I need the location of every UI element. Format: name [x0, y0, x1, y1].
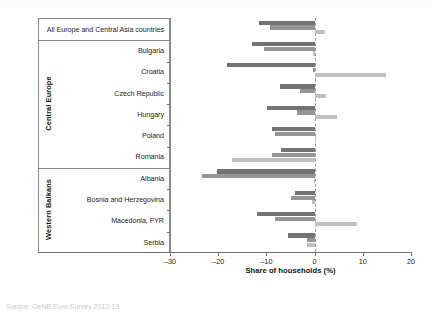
bar	[232, 158, 315, 162]
bar	[314, 179, 315, 183]
bar	[291, 196, 315, 200]
bar	[264, 47, 315, 51]
category-label: Hungary	[137, 111, 164, 119]
bar	[313, 51, 314, 55]
bar	[295, 191, 314, 195]
bar	[315, 222, 357, 226]
source-note: Source: OeNB Euro Survey 2012-13	[6, 303, 119, 310]
bar	[281, 148, 314, 152]
category-label: Romania	[136, 153, 164, 161]
category-label: Bosnia and Herzegovina	[87, 196, 164, 204]
bar	[267, 106, 315, 110]
bar	[307, 238, 315, 242]
category-label-row: Poland	[39, 125, 169, 146]
x-axis-line	[38, 252, 411, 253]
bar	[202, 174, 315, 178]
x-axis-tick-label: –20	[212, 257, 224, 266]
bar	[280, 84, 315, 88]
category-label: Albania	[140, 175, 164, 183]
category-label-row: Czech Republic	[39, 83, 169, 104]
bar	[227, 63, 315, 67]
category-label: Croatia	[141, 68, 164, 76]
bar	[272, 153, 315, 157]
category-label: Czech Republic	[114, 90, 164, 98]
x-axis-tick-label: 0	[313, 257, 317, 266]
category-label: Bulgaria	[138, 47, 164, 55]
x-axis-tick-label: –10	[260, 257, 272, 266]
category-label-row: Croatia	[39, 62, 169, 83]
category-label-panel: All Europe and Central Asia countriesBul…	[38, 18, 170, 252]
bar	[315, 115, 337, 119]
category-label-row: Bulgaria	[39, 40, 169, 61]
bar	[259, 21, 315, 25]
x-axis-tick-label: 20	[407, 257, 415, 266]
chart-figure: All Europe and Central Asia countriesBul…	[0, 0, 432, 312]
bar	[315, 94, 327, 98]
bar	[275, 132, 315, 136]
bar	[270, 25, 315, 29]
plot-area: –30–20–1001020	[170, 18, 411, 252]
category-label: Serbia	[144, 239, 164, 247]
x-axis-tick-label: –30	[164, 257, 176, 266]
bar	[297, 110, 314, 114]
bar	[315, 30, 325, 34]
bar	[315, 73, 386, 77]
category-label-row: Albania	[39, 168, 169, 189]
category-label-row: All Europe and Central Asia countries	[39, 19, 169, 40]
band-separator-middle	[39, 168, 171, 169]
x-axis-title: Share of households (%)	[170, 266, 411, 275]
category-label: Macedonia, FYR	[111, 217, 164, 225]
bar	[275, 217, 315, 221]
category-label-row: Hungary	[39, 104, 169, 125]
plot-left-spine	[170, 18, 171, 252]
bar	[288, 233, 315, 237]
bar	[300, 89, 315, 93]
x-axis-tick-label: 10	[359, 257, 367, 266]
category-label-row: Romania	[39, 147, 169, 168]
bar	[313, 68, 315, 72]
band-separator-top	[39, 40, 171, 41]
bar	[272, 127, 315, 131]
bar	[315, 136, 316, 140]
bar	[307, 243, 314, 247]
category-label-row: Serbia	[39, 232, 169, 253]
figure-top-margin	[0, 0, 432, 8]
bar	[257, 212, 315, 216]
category-label-row: Macedonia, FYR	[39, 210, 169, 231]
x-axis-tick	[411, 252, 412, 256]
zero-reference-line	[315, 18, 316, 252]
category-label-row: Bosnia and Herzegovina	[39, 189, 169, 210]
bar	[252, 42, 315, 46]
bar	[217, 169, 314, 173]
category-label: All Europe and Central Asia countries	[47, 26, 164, 34]
band-title-central-europe: Central Europe	[44, 76, 53, 130]
band-title-western-balkans: Western Balkans	[43, 179, 52, 240]
category-label: Poland	[142, 132, 164, 140]
bar	[312, 200, 315, 204]
